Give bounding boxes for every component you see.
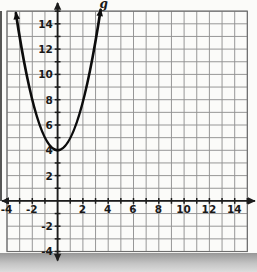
y-axis-up-arrow-icon (54, 2, 61, 10)
x-tick-label: 6 (129, 203, 136, 215)
x-tick-label: -2 (26, 203, 38, 215)
y-axis-down-arrow-icon (54, 254, 61, 262)
x-tick-label: -4 (1, 203, 13, 215)
x-tick-label: 2 (79, 203, 86, 215)
x-tick-label: 8 (155, 203, 162, 215)
y-tick-label: 12 (38, 43, 53, 55)
y-tick-label: -2 (41, 220, 53, 232)
y-tick-label: 8 (45, 94, 52, 106)
x-tick-label: 10 (176, 203, 191, 215)
y-tick-label: -4 (41, 245, 53, 257)
function-label: g (99, 0, 107, 11)
y-tick-label: 6 (45, 119, 52, 131)
x-tick-label: 12 (202, 203, 217, 215)
parabola-chart: -4-224681012141412108642-2-4g (0, 0, 257, 272)
x-tick-label: 14 (227, 203, 242, 215)
y-tick-label: 14 (38, 18, 53, 30)
graph-figure: -4-224681012141412108642-2-4g (0, 0, 257, 272)
y-tick-label: 2 (45, 170, 52, 182)
x-tick-label: 4 (104, 203, 111, 215)
y-tick-label: 10 (38, 68, 53, 80)
x-axis-right-arrow-icon (248, 197, 256, 204)
